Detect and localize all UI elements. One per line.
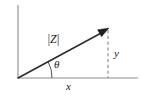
magnitude-label: |Z| (47, 33, 59, 45)
phasor-diagram-canvas (0, 0, 150, 97)
phasor-diagram-figure: |Z| θ x y (0, 0, 150, 97)
x-component-label: x (66, 81, 71, 92)
theta-angle-label: θ (54, 59, 59, 70)
z-vector-arrowhead-icon (98, 28, 110, 37)
theta-angle-arc (48, 62, 52, 78)
z-vector-line (18, 32, 104, 79)
y-component-label: y (114, 48, 119, 59)
